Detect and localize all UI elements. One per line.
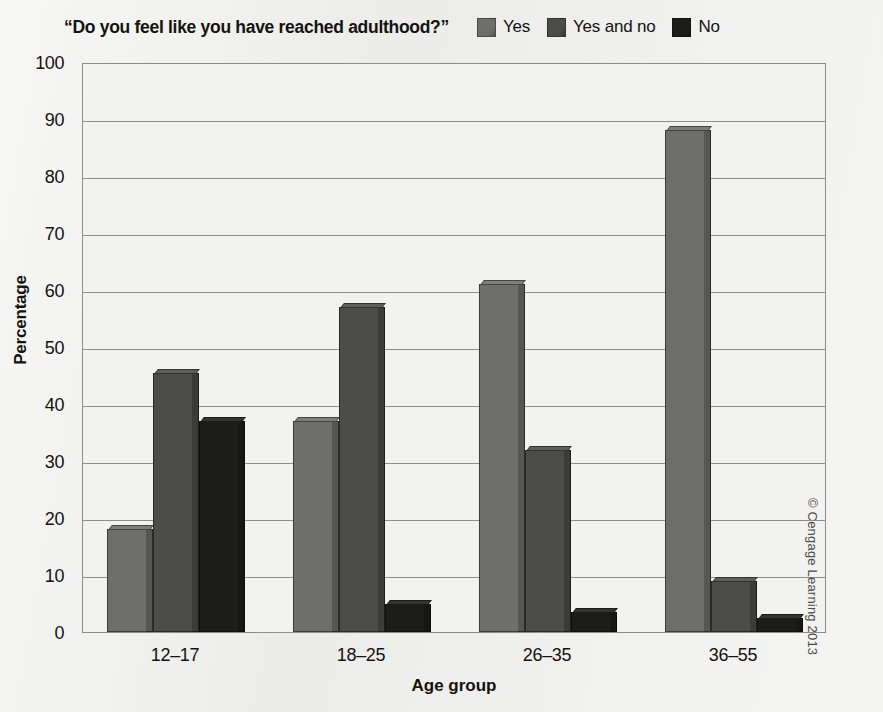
bar-side [378, 307, 385, 632]
bar-face [107, 529, 147, 632]
x-tick-label: 18–25 [337, 645, 386, 666]
bar-top [526, 446, 572, 451]
y-tick-label: 20 [45, 509, 64, 530]
x-axis-tick-labels: 12–1718–2526–3536–55 [82, 645, 826, 673]
legend-item-yes[interactable]: Yes [477, 17, 530, 37]
legend-item-no[interactable]: No [672, 17, 719, 37]
bar-face [525, 450, 565, 632]
copyright-credit: © Cengage Learning 2013 [805, 498, 820, 698]
y-tick-label: 60 [45, 281, 64, 302]
bar-top [712, 577, 758, 582]
figure-bar-chart: “Do you feel like you have reached adult… [0, 0, 883, 712]
y-tick-label: 50 [45, 338, 64, 359]
y-tick-label: 40 [45, 395, 64, 416]
bar[interactable] [199, 421, 245, 632]
bar[interactable] [293, 421, 339, 632]
y-tick-label: 30 [45, 452, 64, 473]
legend-item-yes-and-no[interactable]: Yes and no [547, 17, 655, 37]
bar-top [758, 614, 804, 619]
bar[interactable] [757, 618, 803, 632]
y-tick-label: 100 [35, 53, 64, 74]
bar-top [200, 417, 246, 422]
bar-face [571, 612, 611, 632]
chart-legend: YesYes and noNo [477, 17, 720, 37]
chart-title: “Do you feel like you have reached adult… [64, 17, 449, 38]
y-tick-label: 90 [45, 110, 64, 131]
bar-face [711, 581, 751, 632]
bar-side [424, 604, 431, 633]
bar-face [479, 284, 519, 632]
bar-face [665, 130, 705, 632]
bar-group-18-25 [293, 64, 431, 632]
bar-side [146, 529, 153, 632]
bar-top [340, 303, 386, 308]
bar-top [480, 280, 526, 285]
bar-side [796, 618, 803, 632]
bar-face [339, 307, 379, 632]
y-tick-label: 80 [45, 167, 64, 188]
bar[interactable] [665, 130, 711, 632]
bar-side [610, 612, 617, 632]
bar-group-26-35 [479, 64, 617, 632]
bar-side [192, 373, 199, 632]
bar-face [385, 604, 425, 633]
bar-group-36-55 [665, 64, 803, 632]
bar[interactable] [571, 612, 617, 632]
x-axis-title: Age group [82, 676, 826, 696]
legend-swatch-icon [547, 18, 566, 37]
bar-top [666, 126, 712, 131]
bar-face [757, 618, 797, 632]
bar-group-12-17 [107, 64, 245, 632]
bar[interactable] [479, 284, 525, 632]
bar[interactable] [153, 373, 199, 632]
x-tick-label: 26–35 [523, 645, 572, 666]
bar-side [564, 450, 571, 632]
y-tick-label: 10 [45, 566, 64, 587]
bar[interactable] [711, 581, 757, 632]
bar-face [293, 421, 333, 632]
bar-side [704, 130, 711, 632]
bar[interactable] [107, 529, 153, 632]
x-tick-label: 36–55 [709, 645, 758, 666]
bar-side [518, 284, 525, 632]
legend-swatch-icon [672, 18, 691, 37]
bar-top [386, 600, 432, 605]
bar-top [572, 608, 618, 613]
bar[interactable] [525, 450, 571, 632]
bar-side [332, 421, 339, 632]
y-axis-tick-labels: 1009080706050403020100 [0, 63, 74, 633]
bars-layer [83, 64, 825, 632]
bar[interactable] [339, 307, 385, 632]
bar-top [294, 417, 340, 422]
bar-top [154, 369, 200, 374]
bar-face [199, 421, 239, 632]
bar[interactable] [385, 604, 431, 633]
legend-label: Yes and no [573, 17, 655, 37]
legend-swatch-icon [477, 18, 496, 37]
chart-header: “Do you feel like you have reached adult… [64, 10, 824, 44]
plot-area [82, 63, 826, 633]
bar-face [153, 373, 193, 632]
legend-label: No [698, 17, 719, 37]
y-tick-label: 70 [45, 224, 64, 245]
bar-side [238, 421, 245, 632]
y-tick-label: 0 [54, 623, 64, 644]
legend-label: Yes [503, 17, 530, 37]
x-tick-label: 12–17 [151, 645, 200, 666]
bar-top [108, 525, 154, 530]
bar-side [750, 581, 757, 632]
